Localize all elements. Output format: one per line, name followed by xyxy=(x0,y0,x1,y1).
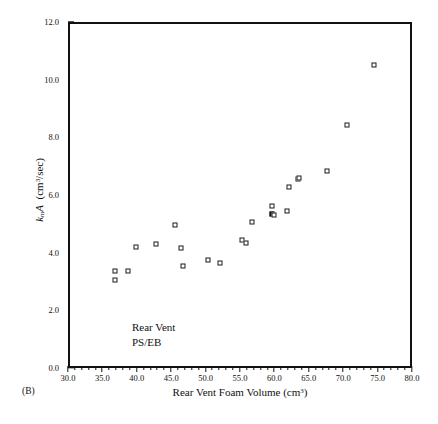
y-tick-label: 6.0 xyxy=(48,191,59,200)
x-tick-major xyxy=(67,366,68,372)
x-tick-minor xyxy=(164,366,165,370)
x-tick-minor xyxy=(294,366,295,370)
x-tick-minor xyxy=(287,366,288,370)
data-point-marker xyxy=(295,177,300,182)
data-point-marker xyxy=(112,278,117,283)
data-point-marker xyxy=(134,245,139,250)
y-tick-label: 12.0 xyxy=(44,18,59,27)
panel-label: (B) xyxy=(22,386,35,396)
x-tick-major xyxy=(274,366,275,372)
data-point-marker xyxy=(217,260,222,265)
x-tick-minor xyxy=(212,366,213,370)
x-tick-major xyxy=(102,366,103,372)
data-point-marker xyxy=(205,257,210,262)
x-tick-minor xyxy=(109,366,110,370)
x-tick-minor xyxy=(88,366,89,370)
x-tick-label: 55.0 xyxy=(233,374,248,383)
data-point-marker xyxy=(270,204,275,209)
x-tick-major xyxy=(411,366,412,372)
annotation-line-2: PS/EB xyxy=(132,335,175,350)
data-point-marker xyxy=(180,263,185,268)
data-point-marker xyxy=(297,176,302,181)
x-tick-minor xyxy=(184,366,185,370)
x-tick-label: 50.0 xyxy=(198,374,213,383)
annotation-line-1: Rear Vent xyxy=(132,320,175,335)
x-tick-minor xyxy=(329,366,330,370)
x-tick-major xyxy=(170,366,171,372)
data-point-marker xyxy=(244,241,249,246)
data-point-marker xyxy=(154,241,159,246)
x-tick-minor xyxy=(95,366,96,370)
x-axis-ticks: 30.035.040.045.050.055.060.065.070.075.0… xyxy=(68,366,412,374)
data-point-marker xyxy=(126,268,131,273)
x-tick-minor xyxy=(150,366,151,370)
x-tick-minor xyxy=(260,366,261,370)
x-tick-minor xyxy=(301,366,302,370)
x-tick-major xyxy=(377,366,378,372)
x-tick-minor xyxy=(404,366,405,370)
x-tick-minor xyxy=(384,366,385,370)
y-axis-tick-labels: 0.02.04.06.08.010.012.0 xyxy=(0,22,68,368)
x-tick-label: 75.0 xyxy=(370,374,385,383)
x-tick-label: 35.0 xyxy=(95,374,110,383)
plot-annotation: Rear Vent PS/EB xyxy=(132,320,175,350)
scatter-plot-figure: kmA (cm3/sec) 0.02.04.06.08.010.012.0 Re… xyxy=(0,0,438,424)
data-point-marker xyxy=(172,222,177,227)
x-tick-minor xyxy=(115,366,116,370)
y-tick-label: 4.0 xyxy=(48,248,59,257)
x-tick-minor xyxy=(129,366,130,370)
data-point-marker xyxy=(112,269,117,274)
x-tick-label: 65.0 xyxy=(301,374,316,383)
y-tick-label: 0.0 xyxy=(48,364,59,373)
plot-area: Rear Vent PS/EB xyxy=(68,22,412,368)
data-point-marker xyxy=(250,220,255,225)
x-tick-minor xyxy=(363,366,364,370)
x-tick-label: 30.0 xyxy=(61,374,76,383)
x-tick-minor xyxy=(232,366,233,370)
x-axis-title: Rear Vent Foam Volume (cm3) xyxy=(68,386,412,398)
x-tick-minor xyxy=(74,366,75,370)
x-tick-major xyxy=(342,366,343,372)
x-tick-minor xyxy=(349,366,350,370)
data-point-marker xyxy=(284,208,289,213)
x-tick-minor xyxy=(281,366,282,370)
x-tick-minor xyxy=(177,366,178,370)
data-point-marker xyxy=(179,245,184,250)
x-tick-minor xyxy=(157,366,158,370)
data-points-layer xyxy=(70,24,410,366)
x-tick-minor xyxy=(143,366,144,370)
x-tick-minor xyxy=(322,366,323,370)
x-tick-minor xyxy=(267,366,268,370)
x-tick-minor xyxy=(122,366,123,370)
x-tick-minor xyxy=(246,366,247,370)
data-point-marker xyxy=(270,212,275,217)
data-point-marker xyxy=(271,213,276,218)
x-tick-minor xyxy=(315,366,316,370)
x-tick-minor xyxy=(226,366,227,370)
x-tick-major xyxy=(136,366,137,372)
x-tick-minor xyxy=(391,366,392,370)
x-tick-label: 40.0 xyxy=(129,374,144,383)
x-tick-minor xyxy=(370,366,371,370)
data-point-marker xyxy=(372,62,377,67)
data-point-marker xyxy=(287,185,292,190)
x-tick-major xyxy=(308,366,309,372)
data-point-marker xyxy=(240,237,245,242)
y-tick-label: 10.0 xyxy=(44,75,59,84)
x-tick-minor xyxy=(198,366,199,370)
y-tick-label: 2.0 xyxy=(48,306,59,315)
x-tick-label: 45.0 xyxy=(164,374,179,383)
x-tick-minor xyxy=(253,366,254,370)
x-tick-label: 80.0 xyxy=(405,374,420,383)
x-tick-minor xyxy=(398,366,399,370)
x-tick-minor xyxy=(336,366,337,370)
x-tick-minor xyxy=(81,366,82,370)
x-tick-minor xyxy=(191,366,192,370)
x-tick-label: 70.0 xyxy=(336,374,351,383)
data-point-marker xyxy=(345,122,350,127)
y-tick-label: 8.0 xyxy=(48,133,59,142)
x-tick-major xyxy=(239,366,240,372)
x-tick-label: 60.0 xyxy=(267,374,282,383)
x-tick-minor xyxy=(356,366,357,370)
x-tick-minor xyxy=(219,366,220,370)
